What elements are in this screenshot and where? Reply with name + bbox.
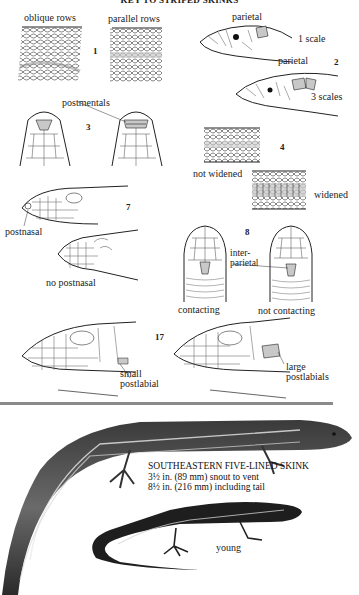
label-not-widened: not widened [193,168,242,179]
key-number-8: 8 [245,227,250,237]
head-three-parietal-illustration [232,68,342,116]
head-without-postnasal-illustration [54,226,140,282]
label-interparietal-line2: parietal [230,258,258,269]
parallel-scale-rows-illustration [108,28,164,82]
label-one-scale: 1 scale [298,33,326,44]
section-divider [0,402,333,405]
head-large-postlabials-illustration [170,316,292,400]
head-small-postlabial-illustration [18,318,140,398]
label-oblique-rows: oblique rows [24,12,76,23]
label-contacting: contacting [178,304,220,315]
head-with-postnasal-illustration [18,184,130,228]
chin-single-postmental-illustration [14,106,74,168]
species-caption: SOUTHEASTERN FIVE-LINED SKINK 3½ in. (89… [148,461,309,493]
label-young: young [216,542,241,553]
oblique-scale-rows-illustration [16,27,84,81]
key-number-17: 17 [155,332,164,342]
head-dorsal-not-contacting-illustration [266,224,316,302]
key-number-1: 1 [93,46,98,56]
key-number-2: 2 [334,57,339,67]
head-one-parietal-illustration [196,22,296,66]
key-number-3: 3 [86,122,91,132]
label-parietal-top: parietal [232,11,262,22]
label-parallel-rows: parallel rows [108,13,160,24]
species-name: SOUTHEASTERN FIVE-LINED SKINK [148,461,309,472]
species-size-svl: 3½ in. (89 mm) snout to vent [148,472,309,483]
page-title: KEY TO STRIPED SKINKS [0,0,359,5]
label-large-postlabials-line2: postlabials [286,371,329,382]
label-widened: widened [314,189,348,200]
chin-paired-postmentals-illustration [106,106,166,168]
head-dorsal-contacting-illustration [180,224,230,302]
species-size-total: 8½ in. (216 mm) including tail [148,482,309,493]
young-skink-illustration [0,500,359,595]
scales-not-widened-illustration [204,128,260,162]
scales-widened-illustration [252,171,306,209]
label-not-contacting: not contacting [258,305,315,316]
key-number-4: 4 [280,142,285,152]
